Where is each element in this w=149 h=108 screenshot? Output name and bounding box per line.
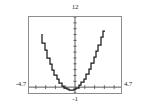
y-min-label: -1 <box>62 95 88 103</box>
y-max-label: 12 <box>62 3 88 11</box>
graph-plot-frame <box>28 16 122 94</box>
x-max-label: 4.7 <box>124 80 148 88</box>
x-min-label: -4.7 <box>1 80 26 88</box>
graph-canvas <box>29 17 121 93</box>
calculator-graph-screenshot: 12 -4.7 4.7 -1 <box>0 0 149 108</box>
